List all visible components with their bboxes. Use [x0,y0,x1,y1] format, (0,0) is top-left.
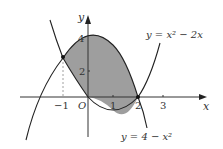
y-axis-label: y [77,11,85,24]
x-tick-2: 2 [135,100,141,111]
shaded-region [63,35,138,114]
curve2-label: y = 4 − x² [120,131,172,142]
intersection-point [136,95,140,99]
y-tick-2: 2 [79,66,85,77]
origin-label: O [78,100,86,111]
curve1-label: y = x² − 2x [145,29,203,40]
x-axis-label: x [203,100,210,113]
y-axis-arrow-icon [85,15,91,24]
y-tick-4: 4 [78,33,84,44]
x-tick-3: 3 [160,100,166,111]
intersection-point [61,55,65,59]
x-tick--1: −1 [54,100,69,111]
x-tick-1: 1 [110,100,116,111]
diagram-canvas: y x 4 2 −1 O 1 2 3 y = x² − 2x y = 4 − x… [0,0,223,149]
